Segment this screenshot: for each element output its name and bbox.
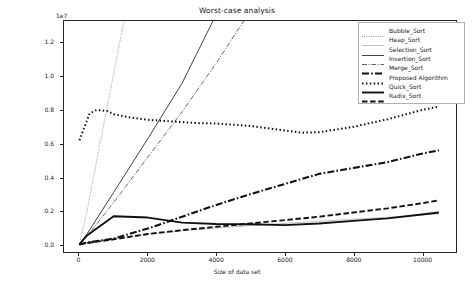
legend-item[interactable]: Quick_Sort: [361, 82, 461, 91]
x-tick-label: 6000: [265, 256, 305, 263]
legend-label: Insertion_Sort: [389, 54, 431, 63]
series-line: [79, 107, 438, 141]
y-tick-label: 0.8: [20, 106, 54, 113]
x-tick-label: 4000: [196, 256, 236, 263]
chart-title: Worst-case analysis: [0, 6, 474, 15]
x-tick-mark: [147, 253, 148, 256]
legend-label: Proposed Algorithm: [389, 73, 448, 82]
legend-item[interactable]: Proposed Algorithm: [361, 72, 461, 81]
legend-line-icon: [361, 82, 385, 91]
y-tick-label: 1.0: [20, 72, 54, 79]
legend-label: Merge_Sort: [389, 63, 423, 72]
x-tick-mark: [285, 253, 286, 256]
legend-line-icon: [361, 54, 385, 63]
y-tick-label: 0.2: [20, 207, 54, 214]
x-tick-label: 2000: [127, 256, 167, 263]
legend-label: Selection_Sort: [389, 45, 432, 54]
y-tick-label: 0.0: [20, 241, 54, 248]
y-axis-exponent-label: 1e7: [56, 12, 67, 19]
x-tick-label: 8000: [334, 256, 374, 263]
x-axis-label: Size of data set: [0, 268, 474, 275]
series-line: [79, 21, 243, 244]
y-tick-label: 0.6: [20, 140, 54, 147]
legend-label: Heap_Sort: [389, 35, 420, 44]
series-line: [79, 200, 438, 244]
x-tick-mark: [216, 253, 217, 256]
legend-line-icon: [361, 63, 385, 72]
legend-item[interactable]: Merge_Sort: [361, 63, 461, 72]
x-tick-label: 10000: [403, 256, 443, 263]
legend-line-icon: [361, 26, 385, 35]
legend-item[interactable]: Radix_Sort: [361, 91, 461, 100]
legend-item[interactable]: Heap_Sort: [361, 35, 461, 44]
y-tick-label: 1.2: [20, 38, 54, 45]
legend-line-icon: [361, 91, 385, 100]
series-line: [79, 150, 438, 244]
chart-legend: Bubble_SortHeap_SortSelection_SortInsert…: [358, 22, 465, 104]
legend-line-icon: [361, 35, 385, 44]
chart-figure: Worst-case analysis 1e7 Execution time i…: [0, 0, 474, 284]
legend-item[interactable]: Insertion_Sort: [361, 54, 461, 63]
legend-line-icon: [361, 73, 385, 82]
x-tick-mark: [354, 253, 355, 256]
x-tick-mark: [78, 253, 79, 256]
legend-label: Radix_Sort: [389, 91, 421, 100]
series-line: [79, 21, 213, 244]
x-tick-mark: [423, 253, 424, 256]
legend-label: Bubble_Sort: [389, 26, 425, 35]
x-tick-label: 0: [58, 256, 98, 263]
legend-item[interactable]: Selection_Sort: [361, 45, 461, 54]
legend-line-icon: [361, 45, 385, 54]
y-tick-label: 0.4: [20, 174, 54, 181]
legend-label: Quick_Sort: [389, 82, 421, 91]
legend-item[interactable]: Bubble_Sort: [361, 26, 461, 35]
